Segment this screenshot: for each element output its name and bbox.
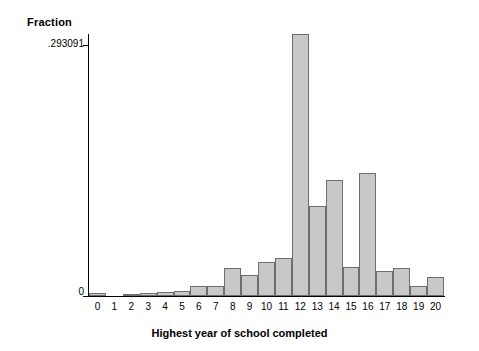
x-tick-label-19: 19 (413, 301, 424, 312)
bar-5 (174, 291, 191, 296)
x-tick-label-9: 9 (247, 301, 253, 312)
bar-8 (224, 268, 241, 296)
bar-12 (292, 34, 309, 296)
bar-0 (89, 293, 106, 296)
histogram-chart: Fraction .293091 0 012345678910111213141… (0, 0, 479, 351)
bar-9 (241, 275, 258, 296)
bar-10 (258, 262, 275, 296)
bar-16 (359, 173, 376, 296)
bar-3 (140, 293, 157, 296)
x-tick-label-1: 1 (112, 301, 118, 312)
x-tick-label-18: 18 (396, 301, 407, 312)
bar-11 (275, 258, 292, 296)
y-tick-label-group: .293091 0 (0, 0, 84, 351)
x-tick-label-4: 4 (162, 301, 168, 312)
x-tick-label-2: 2 (128, 301, 134, 312)
bar-20 (427, 277, 444, 296)
x-tick-label-8: 8 (230, 301, 236, 312)
bar-6 (190, 286, 207, 296)
x-axis-title: Highest year of school completed (0, 327, 479, 339)
bar-17 (376, 271, 393, 296)
x-tick-label-0: 0 (95, 301, 101, 312)
x-tick-label-12: 12 (295, 301, 306, 312)
bar-series (89, 34, 444, 296)
x-tick-label-6: 6 (196, 301, 202, 312)
x-tick-label-15: 15 (345, 301, 356, 312)
plot-area (89, 34, 444, 296)
bar-13 (309, 206, 326, 296)
x-tick-label-10: 10 (261, 301, 272, 312)
x-tick-label-17: 17 (379, 301, 390, 312)
x-tick-label-11: 11 (278, 301, 288, 312)
x-tick-label-group: 01234567891011121314151617181920 (89, 301, 444, 317)
x-axis-line (88, 296, 445, 297)
y-axis-title: Fraction (27, 16, 72, 28)
bar-18 (393, 268, 410, 296)
bar-4 (157, 292, 174, 296)
x-tick-label-20: 20 (430, 301, 441, 312)
bar-7 (207, 286, 224, 296)
x-tick-label-7: 7 (213, 301, 219, 312)
x-tick-label-3: 3 (145, 301, 151, 312)
x-tick-label-16: 16 (362, 301, 373, 312)
x-tick-label-5: 5 (179, 301, 185, 312)
bar-2 (123, 294, 140, 296)
x-tick-label-13: 13 (312, 301, 323, 312)
y-tick-label-max: .293091 (48, 38, 84, 49)
bar-15 (343, 267, 360, 296)
bar-19 (410, 286, 427, 296)
bar-14 (326, 180, 343, 296)
x-tick-label-14: 14 (329, 301, 340, 312)
